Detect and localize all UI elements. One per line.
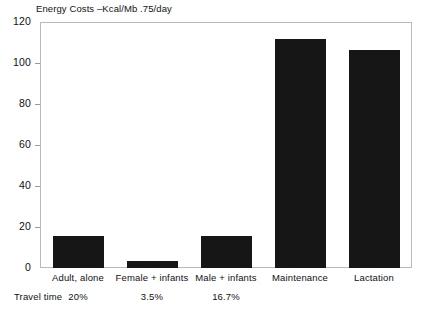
y-axis-tick-label: 40	[19, 179, 31, 191]
category-label: Lactation	[329, 272, 419, 283]
y-axis-tick-label: 120	[13, 15, 31, 27]
bar	[201, 236, 252, 268]
y-axis-tick-mark	[35, 104, 40, 105]
y-axis-tick-mark	[35, 186, 40, 187]
y-axis-tick-mark	[35, 145, 40, 146]
chart-figure: Energy Costs –Kcal/Mb .75/day 0204060801…	[0, 0, 425, 313]
y-axis-tick-mark	[35, 227, 40, 228]
travel-time-value: 3.5%	[115, 291, 189, 302]
y-axis-tick-mark	[35, 63, 40, 64]
y-axis-tick-label: 60	[19, 138, 31, 150]
travel-time-value: 20%	[41, 291, 115, 302]
y-axis-tick-label: 80	[19, 97, 31, 109]
bar	[349, 50, 400, 268]
travel-time-row: Travel time 20%3.5%16.7%	[0, 291, 425, 307]
bar	[53, 236, 104, 268]
y-axis: 020406080100120	[0, 22, 40, 268]
travel-time-value: 16.7%	[189, 291, 263, 302]
y-axis-tick-label: 0	[25, 261, 31, 273]
y-axis-tick-label: 20	[19, 220, 31, 232]
bars-layer	[41, 23, 411, 268]
bar	[275, 39, 326, 268]
category-axis-labels: Adult, aloneFemale + infantsMale + infan…	[41, 272, 411, 288]
y-axis-tick-label: 100	[13, 56, 31, 68]
bar	[127, 261, 178, 268]
chart-title: Energy Costs –Kcal/Mb .75/day	[36, 3, 172, 14]
